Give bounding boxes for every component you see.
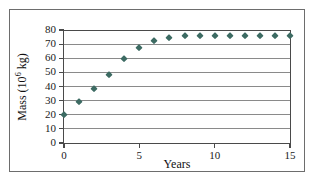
y-tick-label: 50 [45,66,56,77]
data-point [211,32,219,40]
y-tick-label: 10 [45,123,56,134]
y-tick-mark [59,58,64,59]
gridline-y [64,143,290,144]
figure-container: Mass (106 kg) 01020304050607080051015 Ye… [0,0,315,185]
y-axis-title-tail: kg) [15,53,29,72]
gridline-y [64,72,290,73]
y-tick-label: 20 [45,109,56,120]
y-tick-mark [59,72,64,73]
x-tick-mark [289,143,290,148]
plot-area: 01020304050607080051015 [63,30,291,143]
y-tick-label: 70 [45,38,56,49]
data-point [256,32,264,40]
y-axis-title: Mass (106 kg) [14,30,30,143]
data-point [181,33,189,41]
gridline-y [64,44,290,45]
x-tick-mark [63,143,64,148]
gridline-y [64,58,290,59]
y-tick-mark [59,44,64,45]
y-tick-mark [59,86,64,87]
y-tick-label: 0 [51,137,57,148]
data-point [120,55,128,63]
x-tick-mark [139,143,140,148]
data-point [241,32,249,40]
data-point [136,45,144,53]
gridline-y [64,100,290,101]
y-tick-label: 40 [45,81,56,92]
y-axis-title-text: Mass (10 [15,76,29,120]
data-point [226,32,234,40]
y-tick-mark [59,29,64,30]
gridline-y [64,86,290,87]
gridline-y [64,30,290,31]
x-tick-mark [214,143,215,148]
y-tick-mark [59,128,64,129]
y-tick-mark [59,100,64,101]
y-tick-label: 60 [45,52,56,63]
gridline-y [64,128,290,129]
data-point [271,32,279,40]
y-tick-label: 80 [45,24,56,35]
data-point [166,34,174,42]
x-axis-title: Years [63,158,291,170]
data-point [196,32,204,40]
y-tick-label: 30 [45,95,56,106]
gridline-y [64,114,290,115]
